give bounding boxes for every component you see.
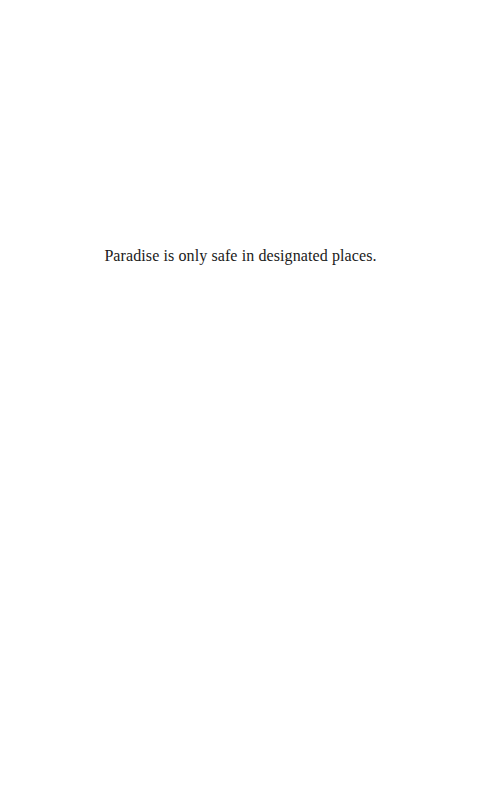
- document-page: Paradise is only safe in designated plac…: [0, 0, 481, 808]
- epigraph-text: Paradise is only safe in designated plac…: [0, 246, 481, 266]
